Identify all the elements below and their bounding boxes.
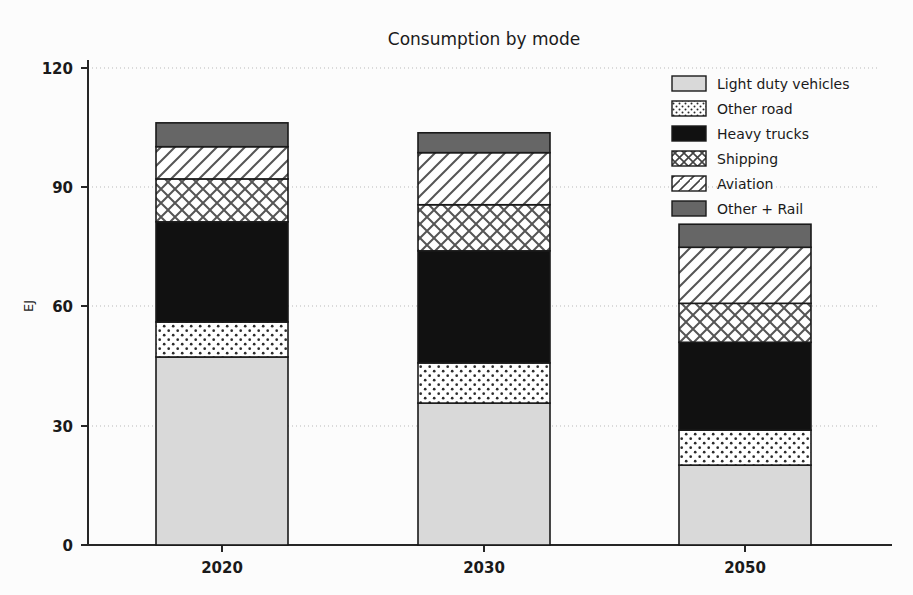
ytick-label-0: 0 xyxy=(63,537,73,555)
legend-swatch-other-rail xyxy=(672,201,706,216)
ytick-label-60: 60 xyxy=(52,298,73,316)
xtick-label-2030: 2030 xyxy=(463,559,505,577)
bar-segment-2050-heavy-trucks xyxy=(679,342,811,430)
bar-segment-2020-heavy-trucks xyxy=(156,222,288,322)
legend-swatch-light-duty-vehicles xyxy=(672,76,706,91)
legend-label-light-duty-vehicles: Light duty vehicles xyxy=(717,76,850,92)
legend-label-shipping: Shipping xyxy=(717,151,778,167)
bar-segment-2050-other-rail xyxy=(679,224,811,247)
bar-segment-2030-heavy-trucks xyxy=(418,251,550,363)
bar-segment-2050-shipping xyxy=(679,303,811,342)
chart-figure: 120 90 60 30 0 EJ 2020 2030 2050 Consump… xyxy=(0,0,913,595)
ytick-label-90: 90 xyxy=(52,179,73,197)
bar-segment-2030-aviation xyxy=(418,153,550,205)
legend-swatch-heavy-trucks xyxy=(672,126,706,141)
bar-segment-2050-light-duty-vehicles xyxy=(679,465,811,545)
legend-swatch-other-road xyxy=(672,101,706,116)
ytick-label-120: 120 xyxy=(42,60,73,78)
bar-segment-2050-aviation xyxy=(679,247,811,303)
legend-label-other-rail: Other + Rail xyxy=(717,201,803,217)
stacked-bar-chart-svg: 120 90 60 30 0 EJ 2020 2030 2050 Consump… xyxy=(0,0,913,595)
ytick-label-30: 30 xyxy=(52,418,73,436)
chart-title: Consumption by mode xyxy=(388,29,580,49)
bar-segment-2020-shipping xyxy=(156,179,288,222)
bar-segment-2020-light-duty-vehicles xyxy=(156,357,288,545)
bar-segment-2030-light-duty-vehicles xyxy=(418,403,550,545)
legend-label-other-road: Other road xyxy=(717,101,793,117)
bar-segment-2050-other-road xyxy=(679,430,811,465)
legend-label-aviation: Aviation xyxy=(717,176,773,192)
bar-segment-2020-other-road xyxy=(156,322,288,357)
xtick-label-2050: 2050 xyxy=(724,559,766,577)
bar-segment-2020-aviation xyxy=(156,147,288,179)
legend-swatch-aviation xyxy=(672,176,706,191)
bar-segment-2030-shipping xyxy=(418,205,550,251)
legend-label-heavy-trucks: Heavy trucks xyxy=(717,126,809,142)
xtick-label-2020: 2020 xyxy=(201,559,243,577)
bar-segment-2030-other-rail xyxy=(418,133,550,153)
bar-segment-2020-other-rail xyxy=(156,123,288,147)
bar-segment-2030-other-road xyxy=(418,363,550,403)
y-axis-title: EJ xyxy=(21,300,36,312)
legend-swatch-shipping xyxy=(672,151,706,166)
